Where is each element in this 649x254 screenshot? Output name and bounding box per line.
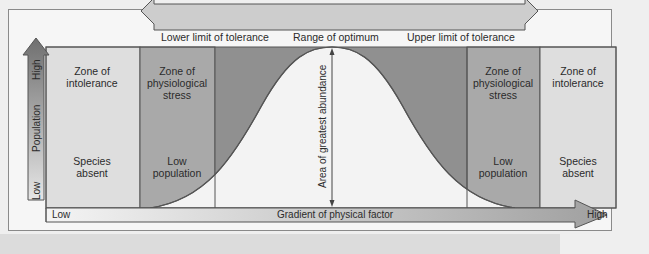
right-stress-desc-1: Low xyxy=(493,155,513,167)
gradient-low-label: Low xyxy=(52,209,71,220)
left-stress-desc-2: population xyxy=(153,167,202,179)
left-intolerance-title-2: intolerance xyxy=(66,77,118,89)
lower-limit-label: Lower limit of tolerance xyxy=(161,31,269,43)
gradient-axis-label: Gradient of physical factor xyxy=(277,209,394,220)
tolerance-range-arrow-shape xyxy=(141,0,538,30)
population-low-label: Low xyxy=(31,181,42,200)
left-intolerance-desc-2: absent xyxy=(76,167,108,179)
right-intolerance-desc-2: absent xyxy=(562,167,594,179)
right-stress-title-2: physiological xyxy=(473,77,533,89)
population-axis-label: Population xyxy=(31,105,42,152)
right-stress-title-3: stress xyxy=(489,89,517,101)
right-stress-title-1: Zone of xyxy=(485,65,521,77)
left-stress-desc-1: Low xyxy=(167,155,187,167)
right-intolerance-title-2: intolerance xyxy=(552,77,604,89)
tolerance-diagram: Area of greatest abundance Lower limit o… xyxy=(0,0,649,254)
greatest-abundance-label: Area of greatest abundance xyxy=(317,64,328,188)
right-stress-desc-2: population xyxy=(479,167,528,179)
gradient-high-label: High xyxy=(587,209,608,220)
right-intolerance-title-1: Zone of xyxy=(560,65,596,77)
left-intolerance-title-1: Zone of xyxy=(74,65,110,77)
left-intolerance-desc-1: Species xyxy=(73,155,110,167)
left-stress-title-1: Zone of xyxy=(159,65,195,77)
upper-limit-label: Upper limit of tolerance xyxy=(407,31,515,43)
left-stress-title-2: physiological xyxy=(147,77,207,89)
optimum-range-label: Range of optimum xyxy=(293,31,379,43)
right-intolerance-desc-1: Species xyxy=(559,155,596,167)
left-stress-title-3: stress xyxy=(163,89,191,101)
population-high-label: High xyxy=(31,59,42,80)
